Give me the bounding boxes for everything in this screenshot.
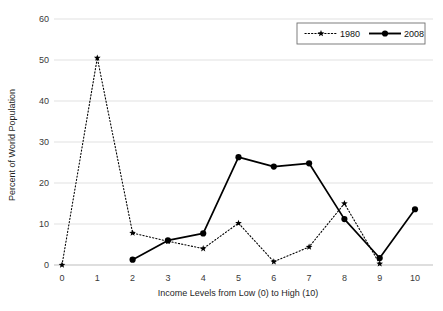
y-tick-label-30: 30 (39, 137, 49, 147)
y-tick-label-0: 0 (44, 260, 49, 270)
data-point-2008 (235, 154, 241, 160)
series-group (59, 54, 418, 267)
x-tick-label-0: 0 (59, 273, 64, 283)
data-point-1980 (341, 200, 348, 206)
x-axis-title: Income Levels from Low (0) to High (10) (158, 288, 319, 298)
data-point-2008 (271, 164, 277, 170)
data-point-2008 (306, 160, 312, 166)
y-axis-ticks-group: 0102030405060 (39, 14, 49, 270)
x-tick-label-8: 8 (342, 273, 347, 283)
legend-label-2008: 2008 (404, 29, 424, 39)
x-tick-label-9: 9 (377, 273, 382, 283)
legend[interactable]: 19802008 (297, 23, 425, 44)
x-tick-label-6: 6 (271, 273, 276, 283)
chart-container: 0102030405060 012345678910 Percent of Wo… (0, 0, 443, 311)
data-point-2008 (412, 206, 418, 212)
x-tick-label-10: 10 (410, 273, 420, 283)
y-tick-label-20: 20 (39, 178, 49, 188)
y-tick-label-50: 50 (39, 55, 49, 65)
legend-label-1980: 1980 (340, 29, 360, 39)
line-chart: 0102030405060 012345678910 Percent of Wo… (0, 0, 443, 311)
x-tick-label-4: 4 (201, 273, 206, 283)
data-point-2008 (377, 255, 383, 261)
x-tick-label-3: 3 (165, 273, 170, 283)
data-point-2008 (130, 257, 136, 263)
y-tick-label-40: 40 (39, 96, 49, 106)
data-point-1980 (129, 230, 136, 236)
x-tick-label-2: 2 (130, 273, 135, 283)
x-tick-label-1: 1 (95, 273, 100, 283)
data-point-1980 (59, 262, 66, 268)
series-line-2008 (133, 157, 415, 260)
data-point-2008 (341, 216, 347, 222)
x-axis-ticks-group: 012345678910 (59, 273, 420, 283)
data-point-1980 (200, 245, 207, 251)
series-line-1980 (62, 58, 380, 265)
y-tick-label-60: 60 (39, 14, 49, 24)
x-tick-label-5: 5 (236, 273, 241, 283)
y-axis-title: Percent of World Population (7, 89, 17, 201)
x-tick-label-7: 7 (307, 273, 312, 283)
y-tick-label-10: 10 (39, 219, 49, 229)
data-point-1980 (376, 260, 383, 266)
data-point-2008 (165, 237, 171, 243)
data-point-2008 (200, 230, 206, 236)
data-point-1980 (270, 258, 277, 264)
data-point-2008 (382, 30, 388, 36)
